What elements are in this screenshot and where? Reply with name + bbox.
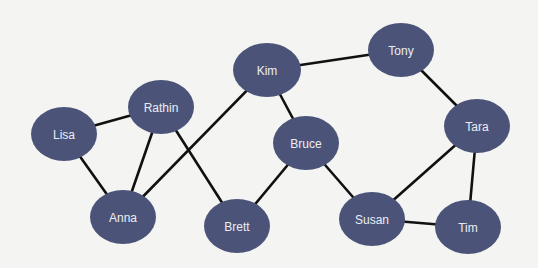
- node-tony: Tony: [368, 23, 434, 77]
- node-kim: Kim: [233, 43, 301, 97]
- node-label: Kim: [257, 64, 278, 78]
- node-susan: Susan: [339, 192, 405, 246]
- node-brett: Brett: [204, 199, 270, 253]
- node-anna: Anna: [90, 190, 156, 244]
- node-rathin: Rathin: [128, 80, 194, 134]
- node-label: Tara: [465, 120, 489, 134]
- network-diagram: LisaRathinKimTonyTaraBruceAnnaBrettSusan…: [0, 0, 538, 268]
- node-label: Brett: [224, 220, 250, 234]
- node-label: Bruce: [290, 137, 322, 151]
- node-label: Anna: [109, 211, 137, 225]
- node-layer: LisaRathinKimTonyTaraBruceAnnaBrettSusan…: [31, 23, 510, 254]
- node-tim: Tim: [435, 200, 501, 254]
- node-label: Tim: [458, 221, 478, 235]
- node-lisa: Lisa: [31, 107, 97, 161]
- node-label: Susan: [355, 213, 389, 227]
- node-label: Rathin: [144, 101, 179, 115]
- node-bruce: Bruce: [273, 116, 339, 170]
- node-label: Lisa: [53, 128, 75, 142]
- node-tara: Tara: [444, 99, 510, 153]
- node-label: Tony: [388, 44, 413, 58]
